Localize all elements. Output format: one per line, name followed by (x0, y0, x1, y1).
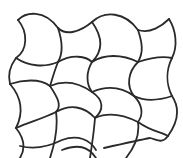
tile-edge (92, 88, 134, 96)
tile-edge (138, 30, 142, 62)
tile-edge (58, 22, 92, 32)
tile-edge (92, 92, 101, 118)
tile-edge (168, 96, 177, 136)
tile-edge (92, 14, 138, 30)
tile-edge (18, 14, 58, 28)
tile-edge (50, 112, 57, 158)
tile-edge (169, 19, 176, 58)
tessellation-svg (0, 0, 183, 158)
tile-edge (138, 122, 168, 136)
tile-edge (50, 62, 58, 86)
tile-edge (58, 28, 62, 62)
tile-edge (92, 56, 138, 62)
tile-edge (138, 19, 169, 31)
tile-edge (10, 84, 21, 128)
tile-edge (134, 96, 141, 122)
tile-edge (138, 57, 172, 62)
tile-edge (50, 86, 59, 112)
tile-edge (92, 22, 100, 62)
tile-edge (16, 128, 23, 158)
tile-edge (168, 58, 173, 96)
tile-edge (88, 62, 93, 92)
tile-edge (16, 112, 56, 128)
tile-edge (50, 83, 92, 92)
tile-edge (9, 20, 25, 84)
tile-edge (129, 62, 138, 96)
tile-edge (134, 96, 172, 100)
tile-edge (58, 57, 92, 62)
tile-edge (95, 115, 138, 122)
tile-edge (16, 58, 58, 65)
tessellation-drawing (0, 0, 183, 158)
tile-edge (10, 81, 50, 87)
tile-edge (56, 107, 95, 118)
